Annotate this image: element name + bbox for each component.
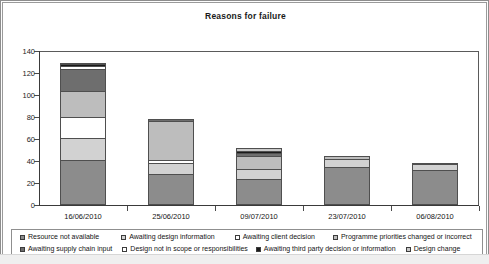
legend-item[interactable]: Design change: [406, 244, 461, 254]
chart-legend: Resource not availableAwaiting design in…: [11, 229, 483, 255]
legend-label: Design change: [414, 244, 461, 254]
bar-segment[interactable]: [60, 117, 106, 138]
bar-segment[interactable]: [148, 163, 194, 174]
x-axis-tick: [479, 206, 480, 211]
legend-item[interactable]: Awaiting third party decision or informa…: [256, 244, 396, 254]
x-axis-tick: [127, 206, 128, 211]
legend-swatch-icon: [235, 235, 240, 240]
x-axis-tick-label: 06/08/2010: [391, 212, 479, 221]
chart-title: Reasons for failure: [3, 11, 488, 21]
bar-segment[interactable]: [324, 167, 370, 206]
bar-segment[interactable]: [324, 159, 370, 167]
y-axis-tick-label: 80: [7, 113, 35, 122]
bars-layer: [39, 51, 479, 206]
bar-group[interactable]: [236, 148, 282, 205]
x-axis-tick-label: 25/06/2010: [127, 212, 215, 221]
legend-swatch-icon: [20, 235, 25, 240]
bar-group[interactable]: [60, 63, 106, 205]
scan-edge-shading: [0, 254, 489, 264]
x-axis-tick: [215, 206, 216, 211]
legend-item[interactable]: Design not in scope or responsibilities: [122, 244, 248, 254]
bar-segment[interactable]: [60, 138, 106, 160]
y-axis-tick-label: 120: [7, 69, 35, 78]
legend-item[interactable]: Awaiting supply chain input: [20, 244, 112, 254]
chart-screenshot: Reasons for failure 020406080100120140 1…: [0, 0, 489, 264]
bar-segment[interactable]: [148, 174, 194, 205]
bar-segment[interactable]: [236, 169, 282, 179]
y-axis-tick-label: 60: [7, 135, 35, 144]
x-axis-tick-label: 16/06/2010: [39, 212, 127, 221]
y-axis-tick-label: 140: [7, 47, 35, 56]
legend-swatch-icon: [20, 247, 25, 252]
y-axis-tick-label: 40: [7, 157, 35, 166]
bar-segment[interactable]: [236, 156, 282, 169]
chart-container: Reasons for failure 020406080100120140 1…: [2, 2, 487, 262]
bar-segment[interactable]: [412, 170, 458, 205]
legend-label: Awaiting design information: [129, 232, 214, 242]
y-axis-tick-label: 20: [7, 179, 35, 188]
x-axis-tick: [391, 206, 392, 211]
bar-segment[interactable]: [148, 121, 194, 160]
bar-group[interactable]: [148, 119, 194, 205]
legend-label: Awaiting client decision: [243, 232, 315, 242]
legend-item[interactable]: Resource not available: [20, 232, 99, 242]
plot-wrapper: 020406080100120140 16/06/201025/06/20100…: [39, 51, 479, 206]
legend-item[interactable]: Awaiting design information: [121, 232, 214, 242]
bar-segment[interactable]: [60, 160, 106, 205]
x-axis-labels: 16/06/201025/06/201009/07/201023/07/2010…: [39, 212, 479, 226]
y-axis-tick-label: 100: [7, 91, 35, 100]
bar-group[interactable]: [412, 163, 458, 205]
bar-segment[interactable]: [236, 179, 282, 205]
bar-group[interactable]: [324, 156, 370, 205]
legend-row-1: Resource not availableAwaiting design in…: [12, 231, 484, 243]
legend-label: Awaiting supply chain input: [28, 244, 112, 254]
legend-label: Awaiting third party decision or informa…: [264, 244, 396, 254]
legend-label: Programme priorities changed or incorrec…: [341, 232, 472, 242]
x-axis-tick: [303, 206, 304, 211]
legend-swatch-icon: [121, 235, 126, 240]
x-axis-tick-label: 09/07/2010: [215, 212, 303, 221]
x-axis-tick-label: 23/07/2010: [303, 212, 391, 221]
y-axis-tick-label: 0: [7, 201, 35, 210]
legend-swatch-icon: [333, 235, 338, 240]
legend-item[interactable]: Awaiting client decision: [235, 232, 315, 242]
bar-segment[interactable]: [60, 69, 106, 91]
legend-item[interactable]: Programme priorities changed or incorrec…: [333, 232, 472, 242]
x-axis-ticks: [39, 206, 479, 211]
legend-swatch-icon: [256, 247, 261, 252]
legend-label: Resource not available: [28, 232, 99, 242]
bar-segment[interactable]: [60, 91, 106, 117]
y-axis-labels: 020406080100120140: [5, 51, 35, 206]
legend-swatch-icon: [122, 247, 127, 252]
legend-swatch-icon: [406, 247, 411, 252]
legend-label: Design not in scope or responsibilities: [130, 244, 248, 254]
